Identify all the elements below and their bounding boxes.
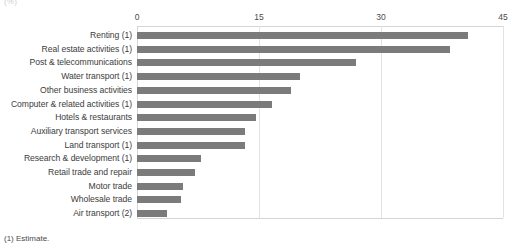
x-tick-label: 15	[254, 12, 263, 23]
bar-row: Hotels & restaurants	[0, 111, 513, 125]
category-label: Renting (1)	[0, 29, 132, 43]
bar-row: Auxiliary transport services	[0, 125, 513, 139]
bar	[137, 155, 201, 162]
bar	[137, 101, 272, 108]
footnote: (1) Estimate.	[4, 234, 49, 244]
bar-row: Renting (1)	[0, 29, 513, 43]
x-axis-tick-labels: 0 15 30 45	[0, 12, 513, 24]
category-label: Post & telecommunications	[0, 56, 132, 70]
bar	[137, 128, 245, 135]
bar	[137, 183, 183, 190]
bar-row: Real estate activities (1)	[0, 43, 513, 57]
bar	[137, 169, 195, 176]
bar	[137, 114, 256, 121]
bar-row: Land transport (1)	[0, 139, 513, 153]
x-tick-label: 45	[498, 12, 507, 23]
bar	[137, 59, 356, 66]
bar-row: Research & development (1)	[0, 152, 513, 166]
category-label: Computer & related activities (1)	[0, 98, 132, 112]
category-label: Motor trade	[0, 180, 132, 194]
x-tick-label: 30	[376, 12, 385, 23]
category-label: Water transport (1)	[0, 70, 132, 84]
bar-row: Retail trade and repair	[0, 166, 513, 180]
bar	[137, 87, 291, 94]
category-label: Research & development (1)	[0, 152, 132, 166]
category-label: Wholesale trade	[0, 193, 132, 207]
bar	[137, 46, 450, 53]
bar-row: Water transport (1)	[0, 70, 513, 84]
bar-row: Wholesale trade	[0, 193, 513, 207]
category-label: Retail trade and repair	[0, 166, 132, 180]
category-label: Real estate activities (1)	[0, 43, 132, 57]
bar-chart: (%) 0 15 30 45 Renting (1) Real estate a…	[0, 0, 513, 248]
bar-row: Computer & related activities (1)	[0, 98, 513, 112]
category-label: Air transport (2)	[0, 207, 132, 221]
unit-axis-label: (%)	[4, 0, 17, 7]
x-tick-label: 0	[135, 12, 140, 23]
category-label: Land transport (1)	[0, 139, 132, 153]
category-label: Auxiliary transport services	[0, 125, 132, 139]
bar-row: Air transport (2)	[0, 207, 513, 221]
bar	[137, 73, 300, 80]
category-label: Other business activities	[0, 84, 132, 98]
bar-row: Post & telecommunications	[0, 56, 513, 70]
bar	[137, 32, 468, 39]
bar-row: Other business activities	[0, 84, 513, 98]
bar-row: Motor trade	[0, 180, 513, 194]
category-label: Hotels & restaurants	[0, 111, 132, 125]
bar	[137, 196, 181, 203]
bar	[137, 142, 245, 149]
bar	[137, 210, 167, 217]
